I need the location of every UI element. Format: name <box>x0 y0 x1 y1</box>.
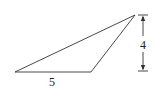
arrow-down-icon <box>141 65 145 71</box>
height-label: 4 <box>140 38 146 52</box>
base-label: 5 <box>49 75 55 89</box>
triangle-diagram: 4 5 <box>0 0 154 89</box>
arrow-up-icon <box>141 16 145 22</box>
triangle <box>15 15 135 72</box>
